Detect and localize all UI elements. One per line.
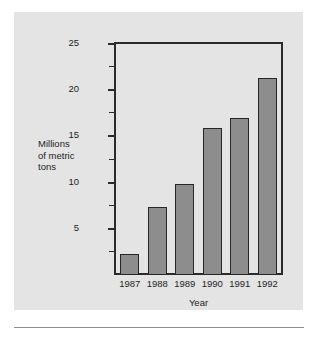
x-axis-tick-label: 1992 bbox=[254, 278, 282, 289]
y-axis-tick-label: 15 bbox=[49, 130, 79, 140]
x-axis-tick-label: 1988 bbox=[144, 278, 172, 289]
bar-1991[interactable] bbox=[230, 44, 249, 275]
y-axis-tick-label: 5 bbox=[49, 223, 79, 233]
bar-1989[interactable] bbox=[175, 44, 194, 275]
x-axis-title: Year bbox=[114, 297, 283, 308]
bar-rect[interactable] bbox=[203, 128, 222, 275]
x-axis-tick-label: 1991 bbox=[226, 278, 254, 289]
x-axis-tick-label: 1989 bbox=[171, 278, 199, 289]
y-axis-title-line-2: of metric bbox=[38, 150, 110, 162]
bar-1992[interactable] bbox=[258, 44, 277, 275]
bar-rect[interactable] bbox=[120, 254, 139, 275]
bar-rect[interactable] bbox=[148, 207, 167, 275]
y-axis-title: Millions of metric tons bbox=[38, 138, 110, 173]
bar-rect[interactable] bbox=[258, 78, 277, 275]
y-axis-title-line-3: tons bbox=[38, 161, 110, 173]
x-axis-tick-label: 1990 bbox=[199, 278, 227, 289]
plot-area bbox=[116, 44, 281, 275]
y-axis-tick-label: 20 bbox=[49, 84, 79, 94]
y-axis-tick-label: 25 bbox=[49, 38, 79, 48]
chart-panel: Millions of metric tons 510152025 198719… bbox=[14, 12, 303, 310]
bottom-divider bbox=[14, 327, 304, 328]
y-axis-tick-label: 10 bbox=[49, 177, 79, 187]
x-axis-tick-label: 1987 bbox=[116, 278, 144, 289]
bar-rect[interactable] bbox=[175, 184, 194, 275]
bar-1988[interactable] bbox=[148, 44, 167, 275]
bar-1987[interactable] bbox=[120, 44, 139, 275]
bar-rect[interactable] bbox=[230, 118, 249, 275]
bar-1990[interactable] bbox=[203, 44, 222, 275]
